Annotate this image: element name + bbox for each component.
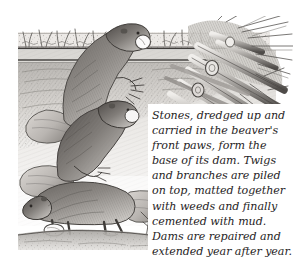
beaver-dam-figure: Stones, dredged up and carried in the be… — [0, 0, 301, 266]
caption-text: Stones, dredged up and carried in the be… — [152, 108, 298, 259]
